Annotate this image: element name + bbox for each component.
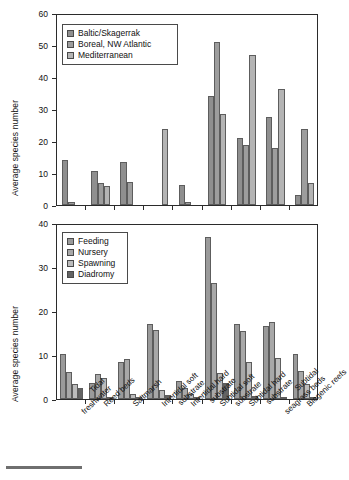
- legend-label-nursery: Nursery: [78, 247, 108, 258]
- y-tick-label: 40: [26, 220, 48, 229]
- x-tick-mark: [114, 206, 115, 210]
- legend-swatch-spawning: [67, 260, 74, 267]
- legend-label-spawning: Spawning: [78, 258, 115, 269]
- legend-item-boreal-nw-atlantic: Boreal, NW Atlantic: [67, 39, 172, 50]
- legend-swatch-nursery: [67, 249, 74, 256]
- legend-label-diadromy: Diadromy: [78, 269, 114, 280]
- bar: [162, 129, 168, 205]
- y-tick-label: 40: [26, 74, 48, 83]
- x-tick-mark: [231, 206, 232, 210]
- bar: [185, 202, 191, 205]
- legend-item-mediterranean: Mediterranean: [67, 50, 172, 61]
- legend-item-baltic-skagerrak: Baltic/Skagerrak: [67, 28, 172, 39]
- bar: [62, 160, 68, 205]
- top-chart-panel: Average species number 0102030405060 Bal…: [0, 0, 328, 216]
- legend-item-feeding: Feeding: [67, 236, 122, 247]
- y-tick-label: 60: [26, 10, 48, 19]
- x-tick-mark: [260, 206, 261, 210]
- bar: [127, 182, 133, 205]
- y-tick-label: 20: [26, 308, 48, 317]
- legend-label-baltic-skagerrak: Baltic/Skagerrak: [78, 28, 140, 39]
- bar: [220, 114, 226, 205]
- top-chart-y-axis-label: Average species number: [10, 100, 20, 196]
- x-tick-mark: [85, 206, 86, 210]
- legend-swatch-mediterranean: [67, 52, 74, 59]
- bar: [68, 202, 74, 205]
- y-tick-label: 20: [26, 138, 48, 147]
- y-tick-label: 10: [26, 352, 48, 361]
- bottom-chart-y-axis-label: Average species number: [10, 306, 20, 402]
- bottom-chart-legend: Feeding Nursery Spawning Diadromy: [62, 232, 128, 284]
- y-tick-label: 50: [26, 42, 48, 51]
- x-tick-mark: [143, 206, 144, 210]
- legend-swatch-diadromy: [67, 271, 74, 278]
- y-tick-label: 30: [26, 106, 48, 115]
- x-tick-mark: [172, 206, 173, 210]
- legend-item-spawning: Spawning: [67, 258, 122, 269]
- legend-label-mediterranean: Mediterranean: [78, 50, 133, 61]
- x-tick-mark: [289, 206, 290, 210]
- legend-swatch-baltic-skagerrak: [67, 30, 74, 37]
- bar: [278, 89, 284, 205]
- y-tick-label: 10: [26, 170, 48, 179]
- top-chart-legend: Baltic/Skagerrak Boreal, NW Atlantic Med…: [62, 24, 178, 65]
- bar: [249, 55, 255, 205]
- legend-label-feeding: Feeding: [78, 236, 109, 247]
- footer-rule: [6, 466, 82, 469]
- y-tick-label: 0: [26, 202, 48, 211]
- x-tick-mark: [202, 206, 203, 210]
- legend-item-diadromy: Diadromy: [67, 269, 122, 280]
- legend-label-boreal-nw-atlantic: Boreal, NW Atlantic: [78, 39, 151, 50]
- legend-swatch-boreal-nw-atlantic: [67, 41, 74, 48]
- legend-swatch-feeding: [67, 238, 74, 245]
- legend-item-nursery: Nursery: [67, 247, 122, 258]
- y-tick-label: 30: [26, 264, 48, 273]
- bar: [308, 183, 314, 205]
- bar: [104, 186, 110, 205]
